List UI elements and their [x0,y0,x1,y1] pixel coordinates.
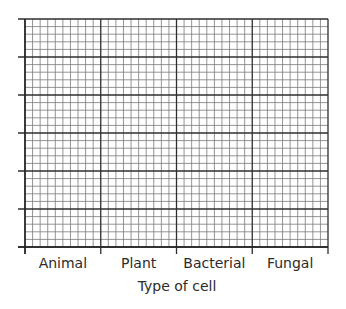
x-tick-label: Animal [39,255,87,271]
axes [18,19,328,254]
x-axis-title: Type of cell [137,278,217,294]
chart: AnimalPlantBacterialFungal Type of cell [0,0,346,309]
category-labels: AnimalPlantBacterialFungal [39,255,314,271]
x-tick-label: Fungal [267,255,313,271]
x-tick-label: Plant [121,255,157,271]
major-grid [18,19,328,254]
x-tick-label: Bacterial [183,255,245,271]
